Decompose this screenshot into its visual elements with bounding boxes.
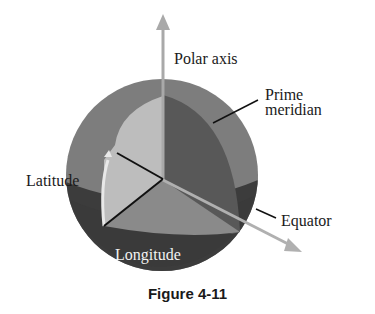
equator-arrowhead-icon xyxy=(284,238,302,252)
prime-meridian-label: Prime meridian xyxy=(265,87,322,117)
figure-caption: Figure 4-11 xyxy=(0,285,375,302)
spherical-coordinates-figure: Polar axis Prime meridian Latitude Equat… xyxy=(0,0,375,314)
sphere-diagram xyxy=(0,0,375,314)
equator-leader xyxy=(256,209,276,218)
latitude-label: Latitude xyxy=(26,172,79,189)
longitude-label: Longitude xyxy=(115,246,181,263)
polar-axis-label: Polar axis xyxy=(174,50,238,67)
prime-meridian-label-line2: meridian xyxy=(265,102,322,117)
equator-label: Equator xyxy=(281,212,332,229)
polar-axis-arrowhead-icon xyxy=(156,14,170,30)
prime-meridian-label-line1: Prime xyxy=(265,87,322,102)
